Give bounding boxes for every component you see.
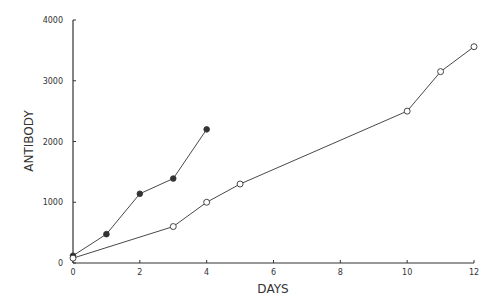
- axes: 01000200030004000024681012: [43, 16, 479, 277]
- y-axis-title: ANTIBODY: [22, 110, 36, 172]
- antibody-line-chart: 01000200030004000024681012 DAYS ANTIBODY: [0, 0, 500, 306]
- open-circle-marker: [237, 181, 243, 187]
- open-circle-marker: [404, 108, 410, 114]
- open-circle-marker: [204, 199, 210, 205]
- x-tick-label: 2: [137, 268, 142, 277]
- open-circle-marker: [170, 224, 176, 230]
- y-tick-label: 1000: [43, 198, 63, 207]
- filled-circle-marker: [204, 127, 210, 133]
- series-open-circle: [70, 44, 477, 261]
- filled-circle-marker: [170, 176, 176, 182]
- series-filled-circle: [70, 127, 209, 259]
- y-tick-label: 3000: [43, 77, 63, 86]
- y-tick-label: 0: [58, 259, 63, 268]
- open-circle-marker: [438, 69, 444, 75]
- filled-circle-marker: [137, 191, 143, 197]
- open-circle-marker: [70, 255, 76, 261]
- x-tick-label: 0: [70, 268, 75, 277]
- open-circle-marker: [471, 44, 477, 50]
- series-line: [73, 47, 474, 258]
- data-series: [70, 44, 477, 261]
- x-axis-title: DAYS: [257, 282, 288, 296]
- filled-circle-marker: [104, 231, 110, 237]
- x-tick-label: 6: [271, 268, 276, 277]
- y-tick-label: 2000: [43, 138, 63, 147]
- x-tick-label: 8: [338, 268, 343, 277]
- y-tick-label: 4000: [43, 16, 63, 25]
- x-tick-label: 10: [402, 268, 412, 277]
- x-tick-label: 4: [204, 268, 209, 277]
- x-tick-label: 12: [469, 268, 479, 277]
